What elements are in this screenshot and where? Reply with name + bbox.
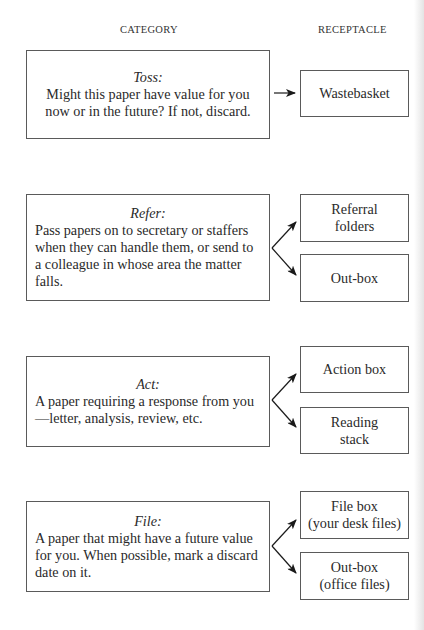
arrow-down-right-icon (272, 400, 296, 427)
arrow-down-right-icon (272, 546, 296, 573)
arrow-up-right-icon (272, 520, 296, 546)
arrow-up-right-icon (272, 374, 296, 400)
arrow-up-right-icon (272, 222, 296, 248)
arrow-down-right-icon (272, 248, 296, 275)
connector-arrows (0, 0, 424, 630)
